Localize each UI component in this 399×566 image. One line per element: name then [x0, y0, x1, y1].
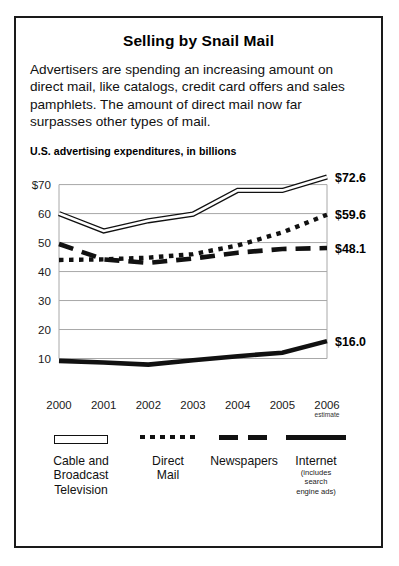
chart-legend: Cable andBroadcastTelevisionDirectMailNe… [16, 435, 381, 531]
end-label-direct-mail: $59.6 [335, 208, 366, 222]
legend-item-cable[interactable]: Cable andBroadcastTelevision [39, 435, 123, 498]
x-tick-2000: 2000 [46, 399, 71, 411]
legend-swatch-wrap [279, 435, 353, 449]
x-tick-estimate-note: estimate [314, 411, 339, 418]
legend-label-newspapers: Newspapers [198, 454, 290, 469]
legend-swatch-wrap [198, 435, 290, 449]
y-tick-label: $70 [32, 177, 51, 190]
end-label-cable: $72.6 [335, 170, 366, 184]
y-tick-label: 40 [38, 264, 51, 277]
x-axis-labels: 2000200120022003200420052006estimate [16, 395, 381, 429]
end-label-newspapers: $48.1 [335, 241, 366, 255]
legend-swatch-wrap [39, 435, 123, 449]
chart-plot-area: 102030405060$70$72.6$59.6$48.1$16.0 [16, 161, 381, 393]
legend-swatch-direct-mail-icon [140, 435, 196, 439]
legend-label-internet: Internet(includessearchengine ads) [279, 454, 353, 496]
series-direct-mail [59, 214, 327, 259]
series-cable-inner [59, 177, 327, 231]
legend-swatch-newspapers-icon [219, 435, 269, 440]
legend-note-line: engine ads) [279, 487, 353, 496]
infographic-panel: Selling by Snail Mail Advertisers are sp… [14, 16, 383, 548]
legend-note-line: (includes [279, 468, 353, 477]
legend-label-cable: Cable andBroadcastTelevision [39, 454, 123, 498]
chart-subtitle: U.S. advertising expenditures, in billio… [30, 145, 381, 157]
x-tick-2004: 2004 [225, 399, 250, 411]
x-tick-2006: 2006estimate [314, 399, 339, 418]
x-tick-2001: 2001 [91, 399, 116, 411]
page-title: Selling by Snail Mail [16, 32, 381, 50]
end-label-internet: $16.0 [335, 334, 366, 348]
legend-note-line: search [279, 477, 353, 486]
y-tick-label: 10 [38, 351, 51, 364]
y-tick-label: 50 [38, 235, 51, 248]
y-tick-label: 30 [38, 293, 51, 306]
x-tick-2003: 2003 [180, 399, 205, 411]
legend-label-direct-mail: DirectMail [135, 454, 201, 483]
legend-item-direct-mail[interactable]: DirectMail [135, 435, 201, 483]
line-chart-svg: 102030405060$70$72.6$59.6$48.1$16.0 [16, 161, 385, 393]
legend-item-internet[interactable]: Internet(includessearchengine ads) [279, 435, 353, 496]
x-tick-2005: 2005 [270, 399, 295, 411]
intro-paragraph: Advertisers are spending an increasing a… [30, 61, 367, 131]
legend-swatch-cable-icon [54, 435, 108, 444]
legend-item-newspapers[interactable]: Newspapers [198, 435, 290, 469]
series-internet [59, 341, 327, 364]
legend-swatch-internet-icon [286, 435, 346, 440]
y-tick-label: 60 [38, 206, 51, 219]
y-tick-label: 20 [38, 322, 51, 335]
series-cable-outer [59, 177, 327, 231]
x-tick-2002: 2002 [136, 399, 161, 411]
legend-swatch-wrap [135, 435, 201, 449]
